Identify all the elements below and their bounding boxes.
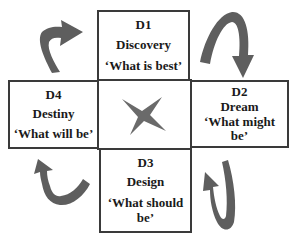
- stage-code: D2: [232, 85, 248, 99]
- stage-d4-destiny-box: D4 Destiny ‘What will be’: [8, 80, 99, 149]
- stage-question: ‘What is best’: [105, 59, 182, 73]
- curved-arrow-icon-bottom-left: [34, 159, 90, 205]
- stage-name: Destiny: [33, 107, 75, 121]
- four-point-star-icon: [120, 93, 170, 137]
- stage-name: Dream: [220, 100, 258, 114]
- center-box: [97, 79, 192, 150]
- stage-code: D4: [46, 88, 62, 102]
- stage-d2-dream-box: D2 Dream ‘What might be’: [190, 80, 289, 148]
- stage-d3-design-box: D3 Design ‘What should be’: [99, 148, 192, 233]
- stage-code: D1: [136, 18, 152, 32]
- stage-name: Discovery: [116, 38, 171, 52]
- stage-d1-discovery-box: D1 Discovery ‘What is best’: [97, 10, 190, 81]
- curved-arrow-icon-top-left: [40, 20, 83, 73]
- stage-question: ‘What might be’: [194, 115, 285, 143]
- stage-name: Design: [127, 175, 165, 189]
- stage-question: ‘What will be’: [14, 127, 93, 141]
- curved-arrow-icon-top-right: [200, 12, 254, 78]
- stage-question: ‘What should be’: [106, 195, 186, 225]
- stage-code: D3: [138, 156, 154, 170]
- curved-arrow-icon-bottom-right: [203, 160, 235, 230]
